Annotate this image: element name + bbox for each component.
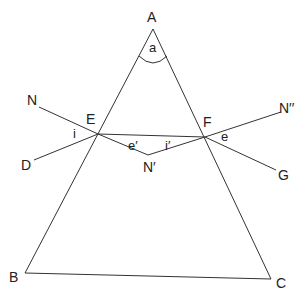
label-g: G (278, 167, 289, 183)
label-c: C (276, 275, 286, 291)
normal-e-to-n-prime (98, 134, 148, 155)
label-n-double-prime: N′′ (279, 100, 295, 116)
label-i-prime: i′ (165, 138, 171, 153)
label-d: D (21, 157, 31, 173)
normal-n-prime-to-f (148, 137, 205, 155)
label-b: B (9, 269, 18, 285)
emergent-ray (205, 137, 276, 170)
prism-diagram: A B C a N E i D e′ i′ N′ F e N′′ G (0, 0, 308, 296)
refracted-ray-ef (98, 134, 205, 137)
label-n-prime: N′ (143, 159, 156, 175)
normal-line-f (205, 112, 281, 137)
label-e-emergence: e (221, 129, 228, 144)
label-prism-angle: a (149, 40, 157, 55)
apex-angle-arc (139, 56, 167, 63)
label-a: A (147, 9, 157, 25)
label-f: F (203, 114, 212, 130)
prism-side-ac (153, 29, 271, 279)
label-e-prime: e′ (128, 138, 138, 153)
label-e: E (86, 111, 95, 127)
label-n: N (27, 92, 37, 108)
normal-line-e (34, 134, 98, 160)
label-i: i (73, 126, 76, 141)
prism-base-bc (25, 273, 271, 279)
